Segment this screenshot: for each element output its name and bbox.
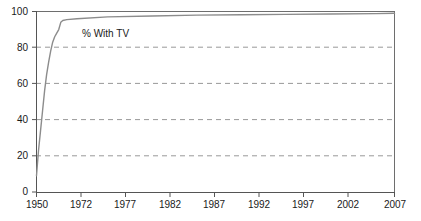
y-axis (32, 11, 37, 193)
x-axis-label-2002: 2002 (328, 199, 368, 210)
y-axis-label-40: 40 (0, 114, 28, 125)
x-axis-label-1987: 1987 (194, 199, 234, 210)
series-annotation-label: % With TV (82, 28, 129, 39)
x-axis-label-1972: 1972 (61, 199, 101, 210)
y-axis-label-80: 80 (0, 42, 28, 53)
x-axis-label-2007: 2007 (375, 199, 415, 210)
x-axis-label-1992: 1992 (239, 199, 279, 210)
tv-penetration-chart: 100 80 60 40 20 0 1950 1972 1977 1982 19… (0, 0, 421, 221)
x-axis-label-1950: 1950 (17, 199, 57, 210)
x-axis-label-1997: 1997 (283, 199, 323, 210)
y-axis-label-0: 0 (0, 186, 28, 197)
x-axis-label-1977: 1977 (105, 199, 145, 210)
y-axis-label-60: 60 (0, 78, 28, 89)
gridlines (36, 47, 395, 156)
x-axis (36, 193, 395, 198)
y-axis-label-100: 100 (0, 6, 28, 17)
x-axis-label-1982: 1982 (150, 199, 190, 210)
chart-plot-area (0, 0, 421, 221)
y-axis-label-20: 20 (0, 150, 28, 161)
